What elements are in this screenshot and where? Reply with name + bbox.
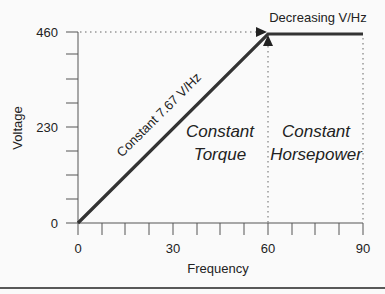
y-tick-label: 0 [51,216,58,231]
vhz-chart: 460 230 0 0 30 60 90 Frequency Voltage C… [0,0,385,294]
constant-torque-label: Constant [186,122,255,141]
x-tick-label: 30 [166,241,180,256]
x-tick-label: 0 [74,241,81,256]
x-tick-label: 60 [261,241,275,256]
decreasing-label: Decreasing V/Hz [269,10,367,25]
x-ticks [78,223,363,235]
y-tick-label: 460 [36,25,58,40]
y-ticks [66,32,78,199]
y-axis-title: Voltage [10,106,25,149]
x-tick-label: 90 [356,241,370,256]
diagonal-label: Constant 7.67 V/Hz [114,70,205,160]
constant-horsepower-label: Constant [282,122,351,141]
constant-torque-label: Torque [194,145,246,164]
constant-horsepower-label: Horsepower [270,145,363,164]
y-tick-label: 230 [36,120,58,135]
x-axis-title: Frequency [187,261,249,276]
